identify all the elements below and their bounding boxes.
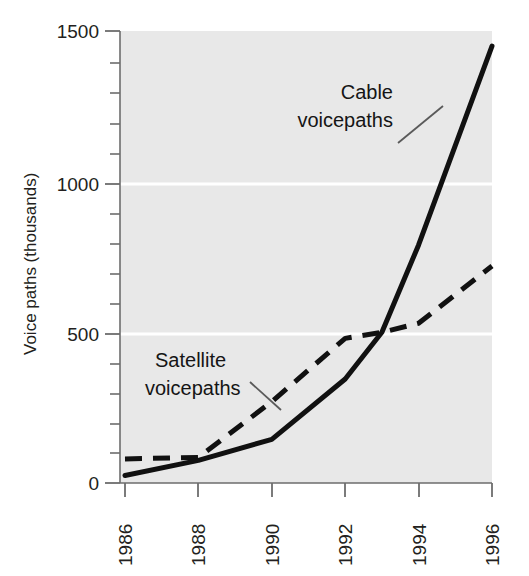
x-tick-label-1986: 1986 bbox=[115, 524, 136, 566]
x-tick-label-1990: 1990 bbox=[262, 524, 283, 566]
y-axis-title: Voice paths (thousands) bbox=[21, 173, 40, 355]
x-axis-ticks bbox=[125, 483, 492, 497]
y-tick-label-500: 500 bbox=[67, 324, 99, 345]
y-axis-minor-ticks bbox=[110, 63, 120, 453]
plot-area-background bbox=[120, 31, 492, 483]
y-axis-major-ticks bbox=[105, 31, 120, 483]
line-chart: 1500 1000 500 0 Voice paths (thousands) … bbox=[0, 0, 529, 576]
x-tick-label-1988: 1988 bbox=[188, 524, 209, 566]
cable-annotation-line1: Cable bbox=[341, 81, 393, 103]
y-tick-label-1000: 1000 bbox=[57, 174, 99, 195]
y-tick-label-1500: 1500 bbox=[57, 21, 99, 42]
chart-figure: 1500 1000 500 0 Voice paths (thousands) … bbox=[0, 0, 529, 576]
y-tick-label-0: 0 bbox=[88, 473, 99, 494]
x-tick-label-1994: 1994 bbox=[409, 523, 430, 566]
satellite-annotation-line1: Satellite bbox=[155, 349, 226, 371]
x-tick-label-1992: 1992 bbox=[335, 524, 356, 566]
cable-annotation-line2: voicepaths bbox=[297, 109, 393, 131]
satellite-annotation-line2: voicepaths bbox=[145, 377, 241, 399]
x-tick-label-1996: 1996 bbox=[482, 524, 503, 566]
